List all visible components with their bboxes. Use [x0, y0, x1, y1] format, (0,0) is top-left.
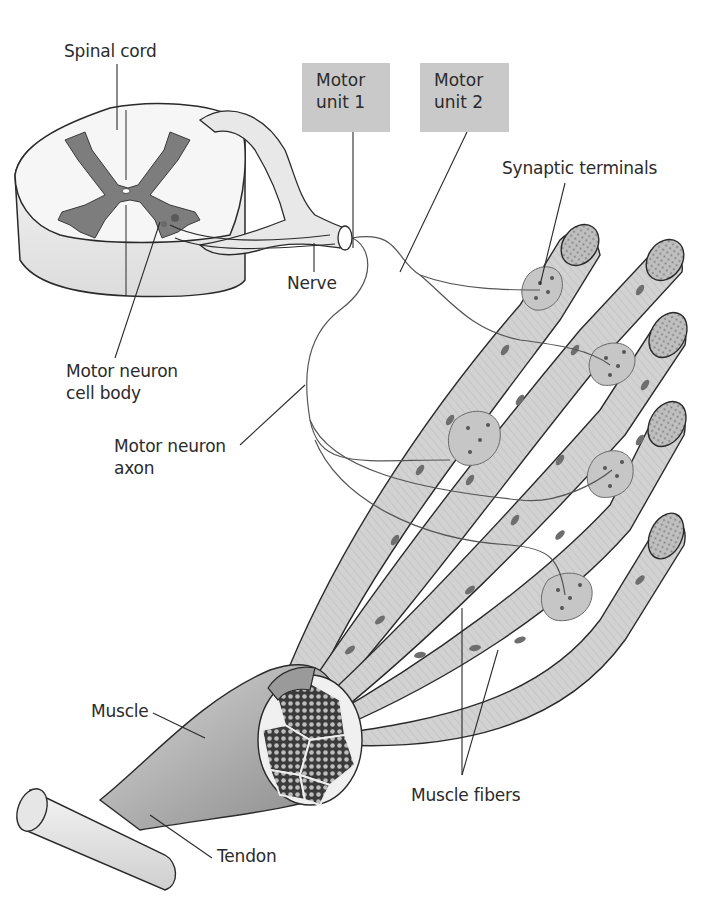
- spinal-cord: [15, 104, 245, 297]
- label-motor-unit-1: Motor unit 1: [302, 63, 390, 132]
- muscle-bundle: [100, 665, 362, 830]
- label-spinal-cord: Spinal cord: [64, 40, 157, 62]
- label-tendon: Tendon: [217, 845, 277, 867]
- label-nerve: Nerve: [287, 272, 337, 294]
- label-synaptic-terminals: Synaptic terminals: [502, 157, 657, 179]
- muscle-fibers-group: [280, 217, 695, 745]
- label-motor-unit-2: Motor unit 2: [420, 63, 509, 132]
- label-motor-neuron-axon: Motor neuron axon: [114, 435, 226, 479]
- motor-unit-diagram: Spinal cord Motor unit 1 Motor unit 2 Sy…: [0, 0, 714, 913]
- label-muscle-fibers: Muscle fibers: [411, 784, 520, 806]
- label-motor-neuron-cell-body: Motor neuron cell body: [66, 360, 178, 404]
- label-muscle: Muscle: [91, 700, 149, 722]
- diagram-illustration: [0, 0, 714, 913]
